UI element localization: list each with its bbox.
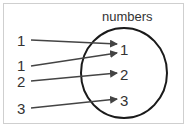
right-element-3: 3 [120,93,128,108]
arrow-1-to-1-b [31,53,117,66]
arrow-1-to-1-a [31,40,117,44]
left-element-1: 1 [17,33,25,48]
left-element-2: 1 [17,58,25,73]
mapping-diagram-svg [0,0,189,129]
set-title: numbers [102,10,153,23]
arrow-3-to-3 [31,99,117,108]
left-element-3: 2 [17,74,25,89]
left-element-4: 3 [17,101,25,116]
right-element-2: 2 [120,67,128,82]
right-element-1: 1 [120,42,128,57]
arrow-2-to-2 [31,73,117,81]
